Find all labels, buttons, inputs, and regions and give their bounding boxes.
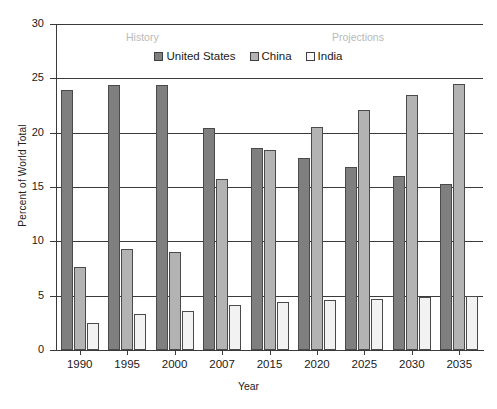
bar-india[interactable] (134, 314, 146, 350)
x-axis-tick-mark (459, 350, 460, 355)
bar-us[interactable] (156, 85, 168, 350)
y-axis-tick-mark (50, 241, 56, 242)
bar-us[interactable] (298, 158, 310, 350)
bar-us[interactable] (393, 176, 405, 350)
x-axis-tick-mark (412, 350, 413, 355)
y-axis-tick-label: 30 (18, 17, 44, 29)
bar-india[interactable] (87, 323, 99, 350)
x-axis-tick-mark (175, 350, 176, 355)
bar-china[interactable] (453, 84, 465, 350)
bar-china[interactable] (216, 179, 228, 350)
y-axis-tick-mark (50, 133, 56, 134)
bar-china[interactable] (169, 252, 181, 350)
x-axis-tick-mark (317, 350, 318, 355)
bar-group (156, 24, 194, 350)
bar-us[interactable] (251, 148, 263, 350)
y-axis-tick-mark (50, 187, 56, 188)
x-axis-tick-mark (270, 350, 271, 355)
bar-group (393, 24, 431, 350)
bar-group (251, 24, 289, 350)
legend-label-china: China (262, 50, 292, 62)
bar-india[interactable] (277, 302, 289, 350)
y-axis-tick-label: 20 (18, 126, 44, 138)
bar-india[interactable] (324, 300, 336, 350)
bar-china[interactable] (358, 110, 370, 350)
y-axis-tick-mark (50, 24, 56, 25)
x-axis-tick-mark (364, 350, 365, 355)
legend-item-china: China (250, 50, 292, 62)
x-axis-tick-mark (127, 350, 128, 355)
bar-us[interactable] (345, 167, 357, 350)
bar-china[interactable] (311, 127, 323, 350)
bar-group (108, 24, 146, 350)
bar-china[interactable] (74, 267, 86, 350)
y-axis-title: Percent of World Total (17, 96, 28, 256)
bar-group (203, 24, 241, 350)
y-axis-tick-label: 25 (18, 71, 44, 83)
bar-india[interactable] (466, 296, 478, 350)
y-axis-tick: 10 (0, 241, 56, 242)
x-axis-tick-mark (222, 350, 223, 355)
legend-label-india: India (318, 50, 343, 62)
bar-us[interactable] (61, 90, 73, 350)
y-axis-tick: 15 (0, 187, 56, 188)
legend-swatch-china (250, 52, 259, 61)
bar-us[interactable] (108, 85, 120, 350)
y-axis-tick: 0 (0, 350, 56, 351)
y-axis-tick-label: 15 (18, 180, 44, 192)
bar-india[interactable] (182, 311, 194, 350)
y-axis-tick: 5 (0, 296, 56, 297)
bar-china[interactable] (264, 150, 276, 350)
plot-area: 3025201510501990199520002007201520202025… (56, 24, 483, 350)
chart-legend: United States China India (0, 50, 497, 62)
y-axis-tick: 25 (0, 78, 56, 79)
annotation-history: History (126, 31, 159, 43)
bar-group (298, 24, 336, 350)
y-axis-tick-label: 10 (18, 234, 44, 246)
y-axis-tick-mark (50, 350, 56, 351)
y-axis-tick-label: 5 (18, 289, 44, 301)
bar-group (61, 24, 99, 350)
bar-china[interactable] (406, 95, 418, 350)
y-axis-tick-mark (50, 78, 56, 79)
legend-label-united-states: United States (166, 50, 235, 62)
bar-us[interactable] (203, 128, 215, 350)
y-axis-tick-label: 0 (18, 343, 44, 355)
annotation-projections: Projections (332, 31, 384, 43)
bar-chart: Percent of World Total 30252015105019901… (0, 0, 497, 409)
x-axis-tick-label: 2035 (429, 358, 489, 370)
legend-swatch-united-states (154, 52, 163, 61)
legend-item-united-states: United States (154, 50, 235, 62)
bar-china[interactable] (121, 249, 133, 350)
bar-us[interactable] (440, 184, 452, 350)
y-axis-tick: 20 (0, 133, 56, 134)
bar-group (345, 24, 383, 350)
x-axis-title: Year (0, 380, 497, 392)
bar-india[interactable] (419, 297, 431, 350)
x-axis-tick-mark (80, 350, 81, 355)
bar-india[interactable] (229, 305, 241, 350)
legend-swatch-india (306, 52, 315, 61)
legend-item-india: India (306, 50, 343, 62)
bar-group (440, 24, 478, 350)
bar-india[interactable] (371, 299, 383, 350)
y-axis-tick: 30 (0, 24, 56, 25)
y-axis-tick-mark (50, 296, 56, 297)
